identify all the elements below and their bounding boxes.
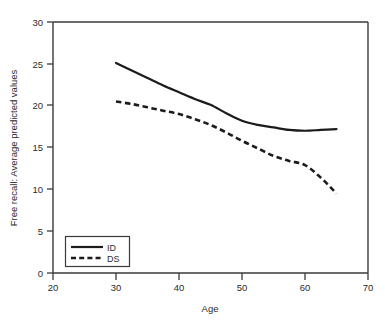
- y-tick-label: 0: [38, 268, 43, 279]
- y-tick-label: 20: [32, 100, 43, 111]
- x-axis-title: Age: [202, 303, 219, 314]
- chart-figure: 30 25 20 15 10 5 0 20 30 40 50 60 70 Age…: [0, 0, 385, 323]
- y-tick-label: 25: [32, 59, 43, 70]
- x-tick-label: 20: [48, 282, 59, 293]
- y-axis-title: Free recall: Average predicted values: [8, 69, 19, 226]
- legend-label-id: ID: [107, 243, 117, 253]
- legend-box: [66, 237, 130, 267]
- y-tick-label: 10: [32, 184, 43, 195]
- series-group: [116, 63, 337, 194]
- y-axis-ticks: 30 25 20 15 10 5 0: [32, 17, 53, 279]
- plot-frame: [53, 22, 368, 273]
- x-tick-label: 30: [111, 282, 122, 293]
- legend: ID DS: [66, 237, 130, 267]
- x-axis-ticks: 20 30 40 50 60 70: [48, 273, 374, 293]
- series-line-ds: [116, 101, 337, 193]
- x-tick-label: 50: [237, 282, 248, 293]
- series-line-id: [116, 63, 337, 131]
- y-tick-label: 30: [32, 17, 43, 28]
- x-tick-label: 40: [174, 282, 185, 293]
- legend-label-ds: DS: [107, 254, 120, 264]
- x-tick-label: 70: [363, 282, 374, 293]
- y-tick-label: 5: [38, 226, 43, 237]
- chart-canvas: 30 25 20 15 10 5 0 20 30 40 50 60 70 Age…: [0, 0, 385, 323]
- y-tick-label: 15: [32, 142, 43, 153]
- x-tick-label: 60: [300, 282, 311, 293]
